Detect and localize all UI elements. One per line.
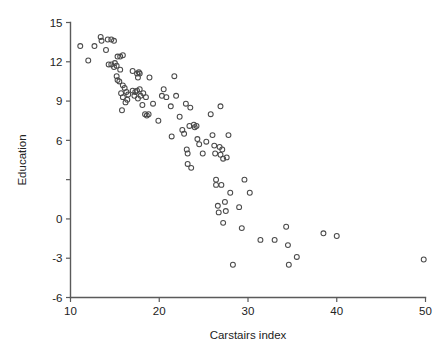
- data-point: [212, 143, 217, 148]
- data-point: [200, 151, 205, 156]
- y-axis-tick-label: 0: [56, 213, 62, 225]
- data-point: [210, 133, 215, 138]
- data-point: [78, 44, 83, 49]
- data-point: [177, 114, 182, 119]
- data-point: [118, 67, 123, 72]
- data-point: [421, 257, 426, 262]
- data-point: [218, 104, 223, 109]
- axis-tick-labels-group: 1512960-3-61020304050: [50, 17, 432, 317]
- data-point: [208, 112, 213, 117]
- data-point: [183, 101, 188, 106]
- data-point: [334, 234, 339, 239]
- data-point: [216, 210, 221, 215]
- data-point: [294, 254, 299, 259]
- data-point: [140, 103, 145, 108]
- data-point: [147, 75, 152, 80]
- data-point: [237, 205, 242, 210]
- data-point: [226, 133, 231, 138]
- data-point: [161, 87, 166, 92]
- plot-canvas: 1512960-3-61020304050 Carstairs indexEdu…: [0, 0, 443, 359]
- y-axis-tick-label: -6: [52, 292, 62, 304]
- data-point: [239, 226, 244, 231]
- data-point: [174, 93, 179, 98]
- data-point: [284, 224, 289, 229]
- data-point: [223, 209, 228, 214]
- y-axis-tick-label: -3: [52, 252, 62, 264]
- data-point: [228, 190, 233, 195]
- data-point: [247, 190, 252, 195]
- data-point: [143, 95, 148, 100]
- data-point: [120, 108, 125, 113]
- data-point: [221, 220, 226, 225]
- data-point: [92, 44, 97, 49]
- data-point: [189, 165, 194, 170]
- x-axis-tick-label: 20: [153, 305, 166, 317]
- y-axis-title: Education: [16, 134, 28, 185]
- scatter-plot-figure: 1512960-3-61020304050 Carstairs indexEdu…: [0, 0, 443, 359]
- data-point: [242, 177, 247, 182]
- data-point: [213, 151, 218, 156]
- y-axis-tick-label: 12: [50, 56, 63, 68]
- data-point: [104, 48, 109, 53]
- x-axis-tick-label: 50: [419, 305, 432, 317]
- data-point: [230, 262, 235, 267]
- data-point: [219, 182, 224, 187]
- data-point: [214, 182, 219, 187]
- data-point: [285, 243, 290, 248]
- data-point: [215, 203, 220, 208]
- y-axis-tick-label: 6: [56, 135, 62, 147]
- data-point: [222, 199, 227, 204]
- data-point: [272, 237, 277, 242]
- data-point: [151, 101, 156, 106]
- data-point: [156, 118, 161, 123]
- axis-ticks-group: [66, 23, 426, 303]
- data-point: [197, 142, 202, 147]
- data-point: [164, 95, 169, 100]
- data-point: [172, 74, 177, 79]
- x-axis-tick-label: 10: [64, 305, 77, 317]
- x-axis-title: Carstairs index: [210, 329, 287, 341]
- data-points-group: [78, 34, 426, 267]
- data-point: [169, 134, 174, 139]
- axes-group: [71, 23, 426, 298]
- data-point: [188, 105, 193, 110]
- y-axis-tick-label: 15: [50, 17, 63, 29]
- x-axis-tick-label: 40: [330, 305, 343, 317]
- data-point: [195, 137, 200, 142]
- data-point: [214, 177, 219, 182]
- data-point: [86, 58, 91, 63]
- data-point: [168, 104, 173, 109]
- y-axis-tick-label: 9: [56, 95, 62, 107]
- x-axis-tick-label: 30: [242, 305, 255, 317]
- data-point: [321, 231, 326, 236]
- data-point: [204, 139, 209, 144]
- data-point: [286, 262, 291, 267]
- data-point: [258, 237, 263, 242]
